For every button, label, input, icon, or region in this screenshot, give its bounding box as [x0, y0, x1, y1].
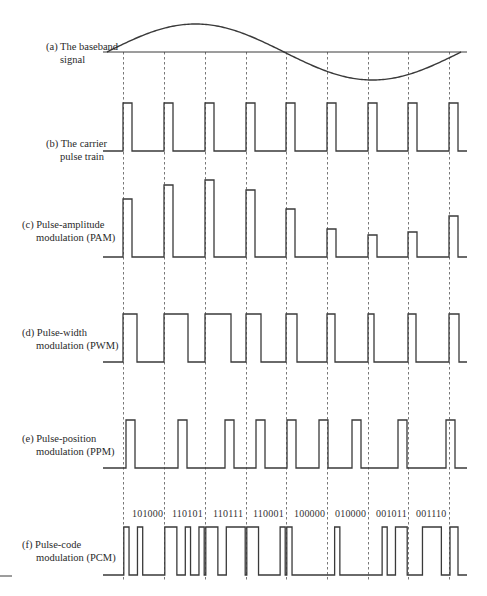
carrier-pulse-train — [103, 103, 467, 151]
label-line1: (c) Pulse-amplitude — [22, 219, 105, 230]
waveform-canvas — [0, 0, 487, 596]
pcm-code-label: 110001 — [253, 508, 284, 519]
pwm-waveform — [103, 314, 467, 362]
pcm-waveform — [103, 527, 467, 575]
pcm-code-label: 110101 — [172, 508, 203, 519]
pcm-code-label: 100000 — [294, 508, 325, 519]
pam-waveform — [103, 180, 467, 257]
label-line1: (f) Pulse-code — [22, 539, 81, 550]
pcm-code-label: 010000 — [335, 508, 366, 519]
label-line2: signal — [46, 53, 118, 66]
label-pam: (c) Pulse-amplitude modulation (PAM) — [22, 218, 115, 244]
ppm-waveform — [103, 420, 467, 468]
label-line2: pulse train — [46, 150, 107, 163]
label-line1: (d) Pulse-width — [22, 327, 87, 338]
label-baseband: (a) The baseband signal — [46, 40, 118, 66]
label-line2: modulation (PCM) — [22, 551, 116, 564]
label-pcm: (f) Pulse-code modulation (PCM) — [22, 538, 116, 564]
label-line2: modulation (PWM) — [22, 339, 119, 352]
pcm-code-label: 101000 — [132, 508, 163, 519]
label-line2: modulation (PAM) — [22, 231, 115, 244]
pcm-code-label: 001110 — [416, 508, 446, 519]
pcm-code-label: 110111 — [213, 508, 243, 519]
pcm-code-label: 001011 — [376, 508, 407, 519]
label-pwm: (d) Pulse-width modulation (PWM) — [22, 326, 119, 352]
label-line2: modulation (PPM) — [22, 445, 114, 458]
label-ppm: (e) Pulse-position modulation (PPM) — [22, 432, 114, 458]
label-carrier: (b) The carrier pulse train — [46, 137, 107, 163]
pulse-modulation-diagram: (a) The baseband signal (b) The carrier … — [0, 0, 487, 596]
label-line1: (e) Pulse-position — [22, 433, 96, 444]
label-line1: (b) The carrier — [46, 138, 107, 149]
label-line1: (a) The baseband — [46, 41, 118, 52]
